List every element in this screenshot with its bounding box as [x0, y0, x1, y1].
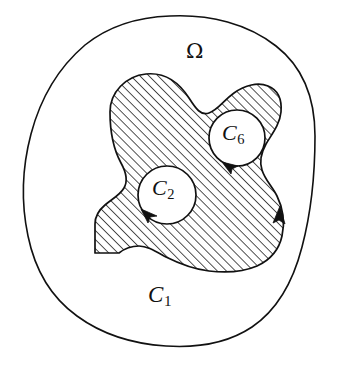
label-c1: C1 — [148, 283, 171, 308]
label-c2: C2 — [152, 177, 174, 202]
label-c1-subscript: 1 — [164, 292, 172, 309]
label-c6-symbol: C — [222, 120, 237, 145]
label-c2-symbol: C — [152, 175, 167, 200]
label-c1-symbol: C — [148, 282, 163, 307]
label-c6: C6 — [222, 122, 244, 147]
figure-canvas: Ω C1 C2 C6 — [0, 0, 340, 368]
label-c6-subscript: 6 — [237, 131, 244, 147]
label-omega: Ω — [186, 41, 203, 62]
label-c2-subscript: 2 — [167, 186, 174, 202]
